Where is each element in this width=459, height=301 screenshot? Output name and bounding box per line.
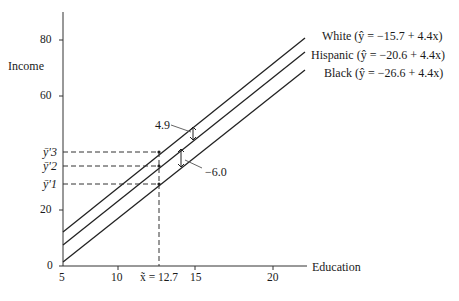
xbar-label: x̃ = 12.7 <box>140 272 178 284</box>
ytick-60: 60 <box>40 90 52 102</box>
gap-lower-label: −6.0 <box>205 166 227 178</box>
xtick-15: 15 <box>190 272 202 284</box>
y2-label: ȳ'2 <box>43 160 57 172</box>
ytick-0: 0 <box>47 260 53 272</box>
xtick-10: 10 <box>111 272 123 284</box>
chart-canvas <box>0 0 459 301</box>
xtick-5: 5 <box>59 272 65 284</box>
x-axis-label: Education <box>312 261 361 273</box>
gap-upper-label: 4.9 <box>155 119 170 131</box>
ytick-20: 20 <box>40 204 52 216</box>
y3-label: ȳ'3 <box>43 146 57 158</box>
legend-white: White (ŷ = −15.7 + 4.4x) <box>322 30 443 42</box>
legend-black: Black (ŷ = −26.6 + 4.4x) <box>324 67 443 79</box>
legend-hispanic: Hispanic (ŷ = −20.6 + 4.4x) <box>311 49 445 61</box>
xtick-20: 20 <box>267 272 279 284</box>
line-hispanic <box>63 52 305 245</box>
y1-label: ȳ'1 <box>43 178 57 190</box>
ytick-80: 80 <box>40 34 52 46</box>
y-axis-label: Income <box>8 60 44 72</box>
line-white <box>63 38 305 232</box>
